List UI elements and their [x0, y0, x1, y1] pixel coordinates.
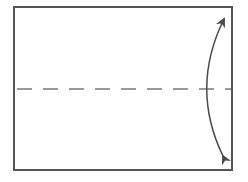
fold-diagram: [0, 0, 248, 182]
